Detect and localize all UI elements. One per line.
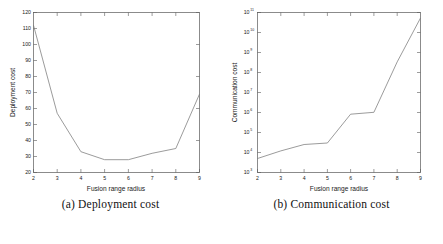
- y-tick-label: 30: [25, 153, 31, 159]
- y-tick-label-mantissa: 10: [244, 89, 250, 95]
- communication-cost-plot: 10 3 10 4 10 5 10 6 10 7 10 8 10 9 10 10: [221, 0, 442, 196]
- data-series-line: [258, 18, 421, 159]
- x-tick-label: 4: [303, 175, 306, 181]
- y-tick-label-mantissa: 10: [244, 9, 250, 15]
- y-tick-label-mantissa: 10: [244, 129, 250, 135]
- panel-caption-b: (b) Communication cost: [221, 198, 442, 210]
- x-tick-label: 8: [396, 175, 399, 181]
- y-tick-label: 60: [25, 105, 31, 111]
- y-tick-label: 20: [25, 169, 31, 175]
- y-tick-label: 80: [25, 73, 31, 79]
- y-tick-label: 50: [25, 121, 31, 127]
- x-tick-label: 8: [174, 175, 177, 181]
- x-axis-tick-labels: 2 3 4 5 6 7 8 9: [256, 175, 422, 181]
- y-axis-tick-labels: 10 3 10 4 10 5 10 6 10 7 10 8 10 9 10 10: [244, 8, 255, 176]
- x-tick-label: 4: [79, 175, 82, 181]
- y-tick-label-exponent: 6: [250, 108, 252, 112]
- y-tick-label-exponent: 9: [250, 48, 252, 52]
- x-tick-label: 9: [419, 175, 422, 181]
- x-tick-label: 5: [103, 175, 106, 181]
- x-tick-label: 3: [56, 175, 59, 181]
- panel-deployment-cost: 20 30 40 50 60 70 80 90 100 110 120: [0, 0, 221, 244]
- x-axis-ticks: [258, 13, 421, 173]
- y-tick-label-exponent: 10: [250, 28, 254, 32]
- y-tick-label-exponent: 8: [250, 68, 252, 72]
- y-tick-label-exponent: 11: [250, 8, 254, 12]
- y-tick-label-exponent: 4: [250, 148, 252, 152]
- y-tick-label-mantissa: 10: [244, 109, 250, 115]
- x-tick-label: 2: [32, 175, 35, 181]
- y-tick-label-mantissa: 10: [244, 29, 250, 35]
- y-tick-label-exponent: 7: [250, 88, 252, 92]
- y-tick-label: 40: [25, 137, 31, 143]
- x-tick-label: 7: [372, 175, 375, 181]
- panel-caption-a: (a) Deployment cost: [0, 198, 221, 210]
- y-tick-label: 110: [23, 25, 31, 31]
- data-series-line: [34, 25, 200, 159]
- y-tick-label-mantissa: 10: [244, 49, 250, 55]
- figure-container: 20 30 40 50 60 70 80 90 100 110 120: [0, 0, 443, 244]
- x-tick-label: 7: [151, 175, 154, 181]
- y-axis-title: Deployment cost: [9, 68, 17, 117]
- deployment-cost-svg: 20 30 40 50 60 70 80 90 100 110 120: [0, 0, 221, 196]
- y-tick-label: 100: [22, 41, 31, 47]
- x-tick-label: 3: [279, 175, 282, 181]
- x-axis-tick-labels: 2 3 4 5 6 7 8 9: [32, 175, 201, 181]
- y-axis-ticks: [258, 13, 421, 173]
- y-axis-tick-labels: 20 30 40 50 60 70 80 90 100 110 120: [22, 9, 31, 175]
- y-axis-title: Communication cost: [231, 62, 238, 122]
- x-axis-title: Fusion range radius: [87, 185, 146, 193]
- x-tick-label: 6: [349, 175, 352, 181]
- y-tick-label-exponent: 3: [250, 168, 252, 172]
- panel-communication-cost: 10 3 10 4 10 5 10 6 10 7 10 8 10 9 10 10: [221, 0, 442, 244]
- x-tick-label: 5: [326, 175, 329, 181]
- x-tick-label: 6: [127, 175, 130, 181]
- y-tick-label-mantissa: 10: [244, 149, 250, 155]
- x-tick-label: 9: [198, 175, 201, 181]
- y-tick-label: 120: [22, 9, 31, 15]
- deployment-cost-plot: 20 30 40 50 60 70 80 90 100 110 120: [0, 0, 221, 196]
- y-tick-label: 70: [25, 89, 31, 95]
- plot-frame: [258, 13, 421, 173]
- x-axis-title: Fusion range radius: [310, 185, 369, 193]
- x-tick-label: 2: [256, 175, 259, 181]
- y-tick-label-exponent: 5: [250, 128, 252, 132]
- y-tick-label: 90: [25, 57, 31, 63]
- y-tick-label-mantissa: 10: [244, 169, 250, 175]
- communication-cost-svg: 10 3 10 4 10 5 10 6 10 7 10 8 10 9 10 10: [221, 0, 442, 196]
- y-tick-label-mantissa: 10: [244, 69, 250, 75]
